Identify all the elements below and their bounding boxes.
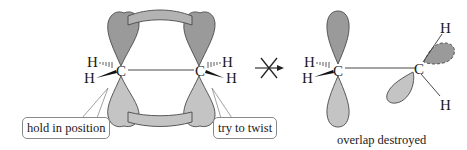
hold-in-position-callout: hold in position <box>22 117 110 139</box>
atom-c-left-2: C <box>333 63 343 79</box>
atom-c-left: C <box>116 63 126 79</box>
atom-h-right-bottom: H <box>226 70 237 86</box>
left-wedge-bond <box>96 70 117 78</box>
right-struct-left-c-bottom-lobe <box>327 76 349 127</box>
right-hashed-bond <box>208 62 220 68</box>
atom-h-right-bottom-2: H <box>440 97 451 113</box>
right-structure: H H C C H H overlap destroyed <box>302 11 455 147</box>
crossed-reaction-arrow <box>255 58 284 78</box>
hold-in-position-label: hold in position <box>27 121 105 135</box>
diagram-canvas: H H C C H H <box>0 0 467 150</box>
atom-c-right: C <box>195 63 205 79</box>
left-hashed-bond <box>100 62 112 68</box>
right-struct-bond-h-bottom <box>421 74 440 96</box>
atom-h-left-bottom-2: H <box>302 70 313 86</box>
atom-h-left-bottom: H <box>84 70 95 86</box>
right-struct-hashed-bond <box>317 62 329 68</box>
right-struct-wedge-bond <box>314 70 334 77</box>
right-struct-right-c-front-lobe <box>387 72 414 103</box>
overlap-destroyed-caption: overlap destroyed <box>337 133 427 147</box>
atom-h-right-top-2: H <box>440 20 451 36</box>
try-to-twist-callout: try to twist <box>213 117 277 139</box>
atom-h-left-top: H <box>87 54 98 70</box>
atom-c-right-2: C <box>414 61 424 77</box>
hold-callout-pointer <box>82 88 108 118</box>
bottom-pi-overlap-band <box>128 112 192 127</box>
right-struct-left-c-top-lobe <box>327 11 349 64</box>
atom-h-left-top-2: H <box>304 54 315 70</box>
atom-h-right-top: H <box>222 54 233 70</box>
try-to-twist-label: try to twist <box>218 121 272 135</box>
right-wedge-bond <box>205 70 224 78</box>
left-structure: H H C C H H <box>82 10 237 127</box>
